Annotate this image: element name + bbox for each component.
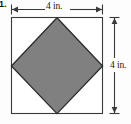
right-dim-bottom-arrowhead — [112, 107, 118, 113]
top-dim-right-arrowhead — [96, 7, 102, 13]
top-dimension-label: 4 in. — [45, 1, 63, 11]
right-dimension-label: 4 in. — [110, 59, 126, 71]
problem-number-label: 1. — [0, 0, 7, 9]
top-dim-left-arrowhead — [12, 7, 18, 13]
right-dim-top-arrowhead — [112, 18, 118, 24]
geometry-figure: 1. 4 in. 4 in. — [0, 0, 131, 124]
